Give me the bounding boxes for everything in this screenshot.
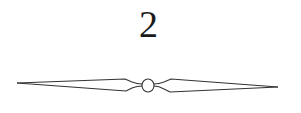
divider-ornament-icon	[0, 0, 301, 113]
